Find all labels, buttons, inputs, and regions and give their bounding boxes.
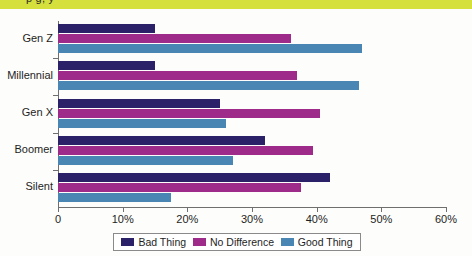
bar — [58, 99, 220, 108]
x-axis-label: 0 — [38, 213, 78, 225]
legend-label: Good Thing — [298, 236, 353, 248]
y-axis-label: Silent — [1, 180, 53, 192]
x-axis-tick — [317, 207, 318, 212]
bar — [58, 44, 362, 53]
y-axis-tick — [53, 95, 59, 96]
plot-area — [58, 21, 446, 207]
chart-page: p g, y Gen ZMillennialGen XBoomerSilent … — [0, 0, 472, 256]
x-axis-tick — [252, 207, 253, 212]
x-axis-tick — [381, 207, 382, 212]
x-axis-tick — [446, 207, 447, 212]
x-axis-label: 30% — [232, 213, 272, 225]
bar-group — [58, 99, 446, 128]
top-banner: p g, y — [0, 0, 472, 9]
y-axis-tick — [53, 133, 59, 134]
x-axis-label: 40% — [297, 213, 337, 225]
bar — [58, 24, 155, 33]
bar — [58, 61, 155, 70]
x-axis-label: 10% — [103, 213, 143, 225]
bar — [58, 156, 233, 165]
bar — [58, 136, 265, 145]
x-axis-label: 20% — [167, 213, 207, 225]
bar — [58, 71, 297, 80]
bar — [58, 81, 359, 90]
chart-legend: Bad ThingNo DifferenceGood Thing — [113, 233, 361, 251]
bar — [58, 183, 301, 192]
x-axis-tick — [187, 207, 188, 212]
bar — [58, 193, 171, 202]
y-axis-tick — [53, 170, 59, 171]
x-axis-label: 60% — [426, 213, 466, 225]
bar-group — [58, 136, 446, 165]
bar — [58, 34, 291, 43]
legend-label: Bad Thing — [138, 236, 186, 248]
legend-item[interactable]: No Difference — [193, 236, 274, 248]
x-axis-label: 50% — [361, 213, 401, 225]
y-axis-label: Boomer — [1, 143, 53, 155]
bar — [58, 173, 330, 182]
y-axis-label: Gen Z — [1, 32, 53, 44]
legend-swatch — [281, 238, 294, 246]
y-axis-labels: Gen ZMillennialGen XBoomerSilent — [0, 21, 53, 207]
y-axis-label: Millennial — [1, 69, 53, 81]
banner-title: p g, y — [26, 0, 54, 4]
legend-swatch — [121, 238, 134, 246]
legend-swatch — [193, 238, 206, 246]
y-axis-tick — [53, 58, 59, 59]
bar-group — [58, 24, 446, 53]
legend-item[interactable]: Bad Thing — [121, 236, 186, 248]
bar — [58, 109, 320, 118]
bar-group — [58, 61, 446, 90]
x-axis-tick — [123, 207, 124, 212]
bar-group — [58, 173, 446, 202]
y-axis-label: Gen X — [1, 106, 53, 118]
legend-item[interactable]: Good Thing — [281, 236, 353, 248]
bar — [58, 119, 226, 128]
bar — [58, 146, 313, 155]
x-axis-tick — [58, 207, 59, 212]
bar-chart: Gen ZMillennialGen XBoomerSilent Bad Thi… — [0, 9, 472, 256]
legend-label: No Difference — [210, 236, 274, 248]
